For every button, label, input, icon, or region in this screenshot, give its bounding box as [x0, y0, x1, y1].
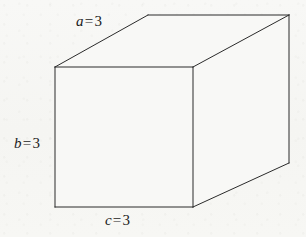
height-label: b=3	[14, 136, 40, 151]
depth-label-equals: =	[84, 13, 95, 29]
depth-label-variable: a	[76, 13, 84, 29]
width-label: c=3	[105, 213, 130, 228]
depth-label: a=3	[76, 14, 102, 29]
height-label-variable: b	[14, 135, 22, 151]
depth-label-value: 3	[94, 13, 102, 29]
height-label-equals: =	[22, 135, 33, 151]
width-label-value: 3	[123, 212, 131, 228]
cuboid-figure: a=3 b=3 c=3	[0, 0, 306, 237]
width-label-variable: c	[105, 212, 112, 228]
cuboid-drawing	[0, 0, 306, 237]
front-face	[55, 67, 193, 207]
height-label-value: 3	[32, 135, 40, 151]
width-label-equals: =	[112, 212, 123, 228]
